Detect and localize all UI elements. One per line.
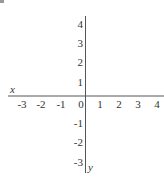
y-tick-label: -2 [74,136,83,148]
x-tick-label: 1 [97,98,103,110]
y-tick-label: 1 [78,76,84,88]
x-axis-label: x [9,83,15,95]
x-tick-label: 4 [154,98,160,110]
x-tick-label: 3 [135,98,141,110]
y-tick-label: 2 [78,56,84,68]
x-tick-label: 0 [78,98,84,110]
y-tick-label: -1 [74,117,83,129]
y-tick-label: 3 [78,37,84,49]
y-axis-label: y [87,161,93,173]
x-tick-label: 2 [116,98,122,110]
y-tick-label: -3 [74,156,84,168]
x-tick-label: -2 [36,98,45,110]
y-tick-label: 4 [78,18,84,30]
coordinate-plane: x y -3 -2 -1 0 1 2 3 4 4 3 2 1 -1 -2 -3 [0,0,164,180]
x-tick-label: -1 [56,98,65,110]
y-tick-labels: 4 3 2 1 -1 -2 -3 [74,18,84,168]
x-tick-labels: -3 -2 -1 0 1 2 3 4 [17,98,160,110]
x-tick-label: -3 [17,98,27,110]
